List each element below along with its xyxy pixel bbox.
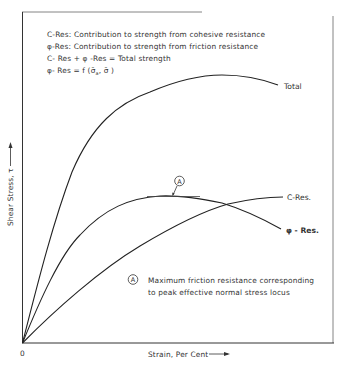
y-axis-label: Shear Stress, τ — [6, 168, 15, 226]
diagram-canvas: C-Res: Contribution to strength from coh… — [0, 0, 344, 366]
curve-c-res — [23, 197, 284, 343]
label-phi-res: φ - Res. — [286, 226, 319, 235]
y-axis-arrow-icon — [9, 142, 13, 148]
label-c-res: C-Res. — [287, 193, 311, 202]
curve-phi-res — [23, 196, 282, 343]
legend-phi-res: φ-Res: Contribution to strength from fri… — [47, 42, 258, 51]
x-axis-arrow-icon — [224, 352, 230, 356]
legend-phi-function: φ- Res = f (σ̄a, σ̄ ) — [47, 66, 114, 76]
legend-c-res: C-Res: Contribution to strength from coh… — [47, 30, 265, 39]
note-line-1: Maximum friction resistance correspondin… — [148, 276, 314, 285]
x-axis-label: Strain, Per Cent — [148, 350, 208, 359]
marker-a-label: A — [177, 178, 182, 186]
note-marker-a-label: A — [131, 276, 136, 284]
legend-total: C- Res + φ -Res = Total strength — [47, 54, 171, 63]
label-total: Total — [283, 82, 302, 91]
y-axis-label-group: Shear Stress, τ — [6, 142, 15, 226]
origin-label: 0 — [20, 349, 25, 358]
note-line-2: to peak effective normal stress locus — [148, 288, 290, 297]
